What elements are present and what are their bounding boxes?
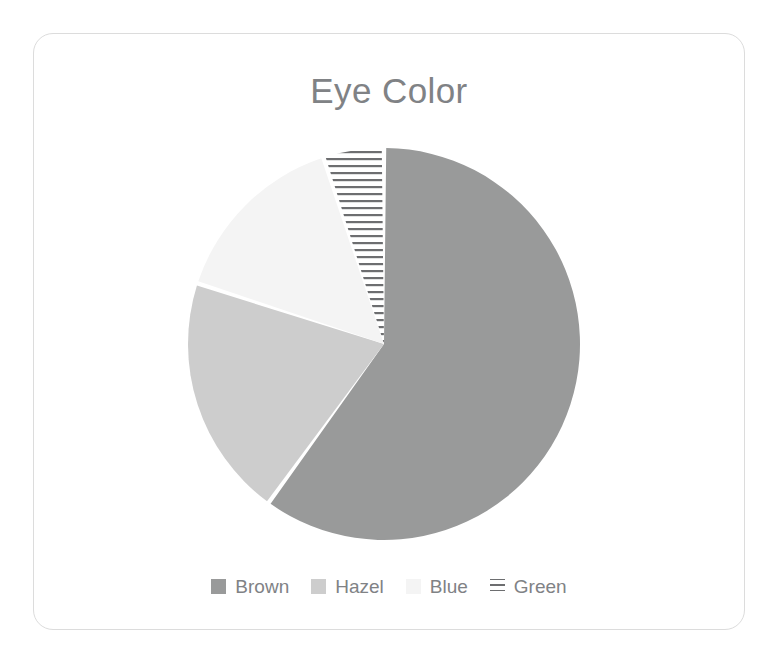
- pie-slice-group: [188, 148, 580, 540]
- legend-swatch-brown-icon: [211, 579, 226, 594]
- legend-label: Green: [514, 577, 567, 596]
- pie-chart-svg[interactable]: [184, 144, 584, 544]
- legend-item-hazel[interactable]: Hazel: [311, 577, 384, 596]
- legend-item-green[interactable]: Green: [490, 577, 567, 596]
- legend-label: Blue: [430, 577, 468, 596]
- legend-swatch-hazel-icon: [311, 579, 326, 594]
- pie-chart-area: [34, 34, 746, 631]
- legend-item-brown[interactable]: Brown: [211, 577, 289, 596]
- legend-item-blue[interactable]: Blue: [406, 577, 468, 596]
- legend-swatch-blue-icon: [406, 579, 421, 594]
- chart-legend: BrownHazelBlueGreen: [34, 577, 744, 596]
- legend-label: Hazel: [335, 577, 384, 596]
- legend-swatch-green-icon: [490, 579, 505, 594]
- legend-label: Brown: [235, 577, 289, 596]
- chart-card: Eye Color BrownHazelBlueGreen: [33, 33, 745, 630]
